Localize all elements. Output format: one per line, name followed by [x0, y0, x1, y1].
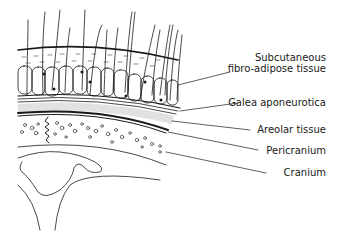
falx-right: [55, 176, 160, 230]
skin-surface: [18, 47, 178, 60]
label-subcutaneous-line1: Subcutaneous: [228, 52, 326, 63]
falx-left: [18, 185, 40, 230]
label-pericranium: Pericranium: [266, 145, 326, 156]
label-subcutaneous: Subcutaneous fibro-adipose tissue: [228, 52, 326, 74]
label-cranium: Cranium: [284, 167, 326, 178]
diploe-bone: [21, 122, 162, 154]
label-galea: Galea aponeurotica: [228, 97, 326, 108]
label-subcutaneous-line2: fibro-adipose tissue: [228, 63, 326, 74]
brain-surface: [18, 152, 102, 196]
leader-lines: [166, 72, 266, 173]
inner-table: [18, 145, 166, 165]
label-areolar: Areolar tissue: [257, 124, 326, 135]
suture: [45, 117, 49, 143]
